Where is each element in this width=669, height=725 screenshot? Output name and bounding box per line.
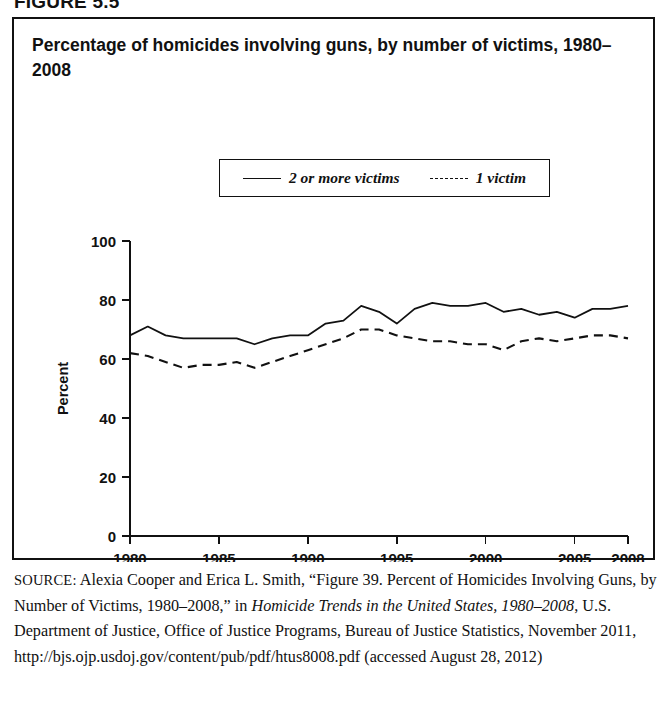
x-axis-tick-label: 1995	[380, 550, 413, 562]
legend-label-two-or-more: 2 or more victims	[289, 169, 400, 187]
x-axis-tick-label: 2005	[558, 550, 591, 562]
chart-legend: 2 or more victims 1 victim	[219, 159, 550, 197]
source-note: SOURCE: Alexia Cooper and Erica L. Smith…	[14, 568, 659, 670]
legend-label-one-victim: 1 victim	[476, 169, 526, 187]
x-axis-tick-label: 1985	[202, 550, 235, 562]
figure-box: Percentage of homicides involving guns, …	[12, 17, 655, 560]
figure-number-label: FIGURE 5.5	[14, 0, 119, 13]
legend-line-solid-icon	[243, 178, 281, 179]
x-axis-tick-label: 2000	[469, 550, 502, 562]
legend-entry-one-victim: 1 victim	[430, 169, 526, 187]
y-axis-title: Percent	[55, 362, 71, 415]
y-axis-tick-label: 20	[99, 469, 116, 486]
series-line-one-victim	[130, 330, 628, 368]
y-axis-tick-label: 100	[91, 233, 116, 250]
x-axis: 1980198519901995200020052008	[113, 536, 644, 562]
y-axis-tick-label: 80	[99, 292, 116, 309]
legend-line-dashed-icon	[430, 178, 468, 179]
line-chart-svg: 020406080100 198019851990199520002005200…	[14, 19, 657, 562]
x-axis-tick-label: 1990	[291, 550, 324, 562]
source-note-publication-title: Homicide Trends in the United States, 19…	[251, 597, 574, 615]
plot-area: 020406080100 198019851990199520002005200…	[14, 19, 657, 562]
y-axis-tick-label: 60	[99, 351, 116, 368]
data-series	[130, 303, 628, 368]
y-axis-tick-label: 40	[99, 410, 116, 427]
x-axis-tick-label: 1980	[113, 550, 146, 562]
source-note-label: SOURCE:	[14, 572, 77, 588]
chart-title: Percentage of homicides involving guns, …	[32, 33, 612, 83]
source-note-line6: (accessed August 28, 2012)	[364, 648, 542, 666]
source-note-line4: Justice, Office of Justice Programs, Bur…	[112, 622, 524, 640]
legend-entry-two-or-more: 2 or more victims	[243, 169, 400, 187]
source-note-line1: Alexia Cooper and Erica L. Smith, “Figur…	[77, 571, 453, 589]
y-axis-tick-label: 0	[108, 528, 116, 545]
x-axis-tick-label: 2008	[611, 550, 644, 562]
series-line-two-or-more-victims	[130, 303, 628, 344]
y-axis: 020406080100	[91, 233, 130, 545]
